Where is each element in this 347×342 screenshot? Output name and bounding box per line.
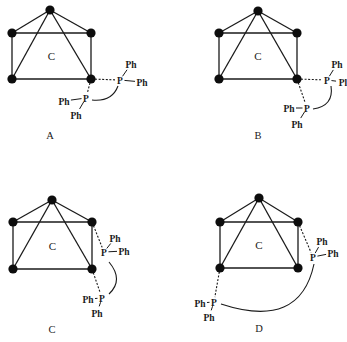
carbide-label: C [49, 240, 56, 252]
phosphorus-phenyl-bond [71, 99, 82, 100]
panel-caption: A [46, 130, 54, 141]
phenyl-label: Ph [58, 97, 70, 107]
metal-atom [7, 74, 16, 83]
phosphorus-label: P [304, 104, 310, 114]
phosphorus-label: P [99, 294, 105, 304]
panel-d: CPhPhPPhPhPD [194, 193, 339, 334]
metal-atom [253, 6, 262, 15]
metal-atom [47, 195, 56, 204]
phenyl-label: Ph [118, 247, 130, 257]
metal-atom [215, 263, 224, 272]
metal-atom [7, 28, 16, 37]
panel-b: CPhPlPPhPhPB [214, 6, 347, 141]
phosphorus-label: P [211, 298, 217, 308]
metal-atom [45, 5, 54, 14]
phosphorus-label: P [310, 253, 316, 263]
phenyl-label: Ph [283, 104, 295, 114]
cluster-bond [259, 198, 298, 222]
diagram-canvas: CPhPhPPhPhPACPhPlPPhPhPBCPhPhPPhPhPCCPhP… [0, 0, 347, 342]
carbide-label: C [254, 50, 261, 62]
metal-phosphorus-bond [93, 273, 100, 293]
phosphorus-phenyl-bond [107, 244, 111, 249]
panel-c: CPhPhPPhPhPC [8, 195, 130, 335]
metal-atom [86, 74, 95, 83]
carbide-label: C [48, 50, 55, 62]
cluster-bond [12, 10, 50, 79]
metal-atom [86, 28, 95, 37]
phosphorus-label: P [101, 248, 107, 258]
phosphorus-label: P [83, 94, 89, 104]
phenyl-label: Ph [82, 295, 94, 305]
metal-phosphorus-bond [93, 226, 102, 248]
phenyl-label: Ph [194, 299, 206, 309]
metal-phosphorus-bond [300, 226, 311, 253]
phosphorus-phenyl-bond [124, 80, 135, 81]
diphosphine-backbone [92, 86, 118, 100]
metal-atom [292, 28, 301, 37]
phenyl-label: Ph [91, 309, 103, 319]
metal-phosphorus-bond [215, 272, 219, 297]
phenyl-label: Ph [291, 120, 303, 130]
cluster-bond [258, 11, 297, 79]
cluster-bond [220, 198, 259, 268]
metal-atom [215, 217, 224, 226]
metal-atom [293, 263, 302, 272]
phenyl-label: Ph [125, 60, 137, 70]
metal-atom [254, 193, 263, 202]
panel-a: CPhPhPPhPhPA [7, 5, 148, 141]
metal-phosphorus-bond [95, 79, 115, 80]
phosphorus-label: P [324, 76, 330, 86]
diphosphine-backbone [313, 86, 331, 109]
diphosphine-backbone [109, 262, 117, 294]
carbide-label: C [255, 239, 262, 251]
metal-atom [292, 74, 301, 83]
panel-caption: C [48, 324, 55, 335]
metal-phosphorus-bond [298, 83, 305, 103]
metal-phosphorus-bond [87, 83, 90, 93]
phenyl-label: Ph [109, 234, 121, 244]
phenyl-label: Ph [203, 313, 215, 323]
metal-atom [293, 217, 302, 226]
phenyl-label: Ph [331, 60, 343, 70]
phenyl-label: Ph [70, 111, 82, 121]
phosphorus-phenyl-bond [331, 81, 336, 82]
phosphorus-phenyl-bond [329, 70, 333, 76]
phenyl-label: Ph [136, 78, 148, 88]
phenyl-label: Ph [327, 249, 339, 259]
metal-atom [8, 264, 17, 273]
cluster-bond [259, 198, 298, 268]
metal-atom [214, 28, 223, 37]
metal-atom [8, 217, 17, 226]
phosphorus-phenyl-bond [317, 254, 326, 256]
cluster-bond [220, 198, 259, 222]
phosphorus-label: P [117, 76, 123, 86]
phenyl-label: Ph [316, 237, 328, 247]
cluster-bond [219, 11, 258, 79]
panel-caption: B [254, 130, 261, 141]
metal-phosphorus-bond [301, 79, 322, 80]
panel-caption: D [255, 323, 263, 334]
metal-atom [214, 74, 223, 83]
metal-atom [87, 264, 96, 273]
metal-atom [87, 217, 96, 226]
phenyl-label: Pl [339, 78, 347, 88]
phosphorus-phenyl-bond [123, 70, 127, 77]
cluster-bond [50, 10, 91, 79]
